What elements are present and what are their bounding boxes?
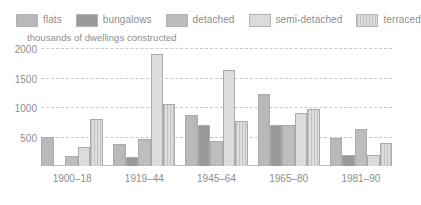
legend-swatch-flats xyxy=(16,14,38,27)
bar-detached-1[interactable] xyxy=(138,139,150,166)
x-tick-label-3: 1965–80 xyxy=(269,173,308,184)
bar-terraced-4[interactable] xyxy=(380,143,392,166)
bar-terraced-3[interactable] xyxy=(307,109,319,166)
bar-terraced-2[interactable] xyxy=(235,121,247,166)
legend-item-semi-detached[interactable]: semi-detached xyxy=(249,14,343,27)
x-tick-label-1: 1919–44 xyxy=(125,173,164,184)
y-tick-label-1500: 1500 xyxy=(15,73,37,84)
bar-terraced-0[interactable] xyxy=(90,119,103,166)
bar-flats-2[interactable] xyxy=(185,115,197,166)
y-tick-label-500: 500 xyxy=(20,132,37,143)
bar-terraced-1[interactable] xyxy=(163,104,175,166)
legend-item-detached[interactable]: detached xyxy=(166,14,235,27)
legend-item-bungalows[interactable]: bungalows xyxy=(76,14,152,27)
y-tick-label-1000: 1000 xyxy=(15,103,37,114)
bar-groups: 1900–181919–441945–641965–801981–90 xyxy=(41,48,392,166)
bar-flats-3[interactable] xyxy=(258,94,270,166)
legend-item-terraced[interactable]: terraced xyxy=(356,14,421,27)
bar-flats-1[interactable] xyxy=(113,144,125,166)
x-tick-label-4: 1981–90 xyxy=(341,173,380,184)
legend-label-terraced: terraced xyxy=(383,15,421,25)
bar-bungalows-4[interactable] xyxy=(342,155,354,166)
legend-swatch-semi-detached xyxy=(249,14,271,27)
legend-item-flats[interactable]: flats xyxy=(16,14,62,27)
bar-bungalows-3[interactable] xyxy=(270,125,282,166)
bar-bungalows-1[interactable] xyxy=(126,157,138,166)
legend-label-flats: flats xyxy=(43,15,62,25)
bar-semi-detached-1[interactable] xyxy=(151,54,163,166)
x-tick-label-2: 1945–64 xyxy=(197,173,236,184)
bar-group-1981-90: 1981–90 xyxy=(330,48,392,166)
bar-semi-detached-3[interactable] xyxy=(295,113,307,166)
legend-swatch-bungalows xyxy=(76,14,98,27)
y-tick-label-2000: 2000 xyxy=(15,44,37,55)
bar-group-1900-18: 1900–18 xyxy=(41,48,103,166)
y-axis-caption: thousands of dwellings constructed xyxy=(27,32,177,43)
bar-semi-detached-2[interactable] xyxy=(223,70,235,166)
bar-detached-0[interactable] xyxy=(65,156,78,166)
bar-semi-detached-0[interactable] xyxy=(78,147,91,166)
legend-label-bungalows: bungalows xyxy=(103,15,152,25)
legend-label-detached: detached xyxy=(193,15,235,25)
bar-group-1919-44: 1919–44 xyxy=(113,48,175,166)
x-tick-label-0: 1900–18 xyxy=(53,173,92,184)
plot-area: 500100015002000 1900–181919–441945–64196… xyxy=(41,48,392,166)
bar-detached-3[interactable] xyxy=(282,125,294,166)
chart-legend: flatsbungalowsdetachedsemi-detachedterra… xyxy=(16,11,382,29)
bar-semi-detached-4[interactable] xyxy=(367,155,379,166)
legend-label-semi-detached: semi-detached xyxy=(276,15,343,25)
legend-swatch-terraced xyxy=(356,14,378,27)
bar-detached-4[interactable] xyxy=(355,129,367,166)
bar-flats-4[interactable] xyxy=(330,138,342,166)
bar-group-1945-64: 1945–64 xyxy=(185,48,247,166)
bar-flats-0[interactable] xyxy=(41,137,54,166)
bar-group-1965-80: 1965–80 xyxy=(258,48,320,166)
bar-bungalows-2[interactable] xyxy=(198,125,210,166)
legend-swatch-detached xyxy=(166,14,188,27)
bar-detached-2[interactable] xyxy=(210,141,222,166)
